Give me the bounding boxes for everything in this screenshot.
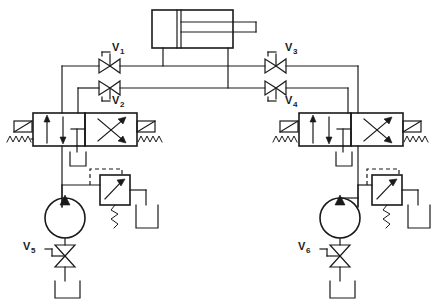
dcv-right-arrow-up-head	[310, 115, 316, 122]
dcv-left-spring-left	[7, 136, 31, 142]
v4-label-base: V	[285, 94, 293, 106]
v2-left-triangle	[99, 81, 110, 95]
reservoir-dcv-right	[336, 146, 352, 166]
v1-label-base: V	[112, 41, 120, 53]
v6-top-triangle	[330, 245, 350, 256]
riser-lines	[62, 66, 358, 113]
v6-label-base: V	[298, 240, 306, 252]
reservoir-dcv-left	[70, 146, 86, 166]
throttle-valve-v1[interactable]: V 1	[99, 41, 125, 73]
v3-left-triangle	[265, 59, 276, 73]
pump-right-flow-arrow	[335, 195, 345, 205]
v2-label-sub: 2	[120, 100, 125, 109]
v4-label-sub: 4	[293, 100, 298, 109]
v5-label-base: V	[23, 240, 31, 252]
cylinder-barrel	[152, 10, 233, 48]
dcv-left-spring-right	[138, 136, 162, 142]
tank-dcv-right-cup	[336, 152, 352, 166]
directional-control-valve-right[interactable]	[273, 113, 428, 207]
shutoff-valve-v6[interactable]: V 6	[298, 240, 350, 281]
relief-right-body	[372, 175, 402, 205]
double-acting-cylinder	[152, 10, 256, 88]
tank-dcv-left-cup	[70, 152, 86, 166]
cylinder-supply-lines	[62, 66, 358, 88]
v6-bottom-triangle	[330, 256, 350, 267]
v1-left-triangle	[99, 59, 110, 73]
tank-relief-right-cup	[408, 205, 430, 228]
circuit-canvas: V 1 V 2 V 3 V 4	[0, 0, 436, 305]
v1-right-triangle	[110, 59, 120, 73]
v5-bottom-triangle	[55, 256, 75, 267]
hydraulic-circuit-diagram: V 1 V 2 V 3 V 4	[0, 0, 436, 305]
v3-right-triangle	[276, 59, 286, 73]
directional-control-valve-left[interactable]	[7, 113, 162, 207]
relief-left-spring	[111, 205, 118, 228]
v6-label-sub: 6	[306, 246, 311, 255]
reservoir-suction-left	[55, 281, 80, 298]
shutoff-valve-v5[interactable]: V 5	[23, 240, 75, 281]
tank-relief-left-cup	[136, 205, 158, 228]
relief-left-pilot-line	[90, 169, 122, 185]
v3-label-base: V	[285, 41, 293, 53]
v3-label-sub: 3	[293, 47, 298, 56]
reservoir-suction-right	[330, 281, 355, 298]
dcv-left-arrow-up-head	[44, 115, 50, 122]
relief-valve-left[interactable]	[62, 169, 158, 228]
tank-suction-left-cup	[55, 281, 80, 298]
throttle-valve-v2[interactable]: V 2	[99, 81, 125, 109]
v2-label-base: V	[112, 94, 120, 106]
dcv-right-solenoid-diag	[280, 121, 298, 132]
v4-right-triangle	[276, 81, 286, 95]
dcv-left-arrow-down-head	[60, 137, 66, 144]
v2-right-triangle	[110, 81, 120, 95]
v4-left-triangle	[265, 81, 276, 95]
dcv-left-solenoid-diag-right	[137, 121, 155, 132]
dcv-left-solenoid-diag	[14, 121, 32, 132]
relief-right-spring	[383, 205, 390, 228]
relief-valve-right[interactable]	[358, 169, 430, 228]
dcv-right-arrow-down-head	[326, 137, 332, 144]
v5-top-triangle	[55, 245, 75, 256]
tank-suction-right-cup	[330, 281, 355, 298]
v1-label-sub: 1	[120, 47, 125, 56]
relief-left-body	[100, 175, 130, 205]
dcv-right-solenoid-diag-right	[403, 121, 421, 132]
throttle-valve-v4[interactable]: V 4	[265, 81, 298, 109]
throttle-valve-v3[interactable]: V 3	[265, 41, 298, 73]
pump-left	[45, 195, 85, 245]
dcv-right-spring-right	[404, 136, 428, 142]
pump-right	[320, 185, 360, 245]
v5-label-sub: 5	[31, 246, 36, 255]
dcv-right-spring-left	[273, 136, 297, 142]
